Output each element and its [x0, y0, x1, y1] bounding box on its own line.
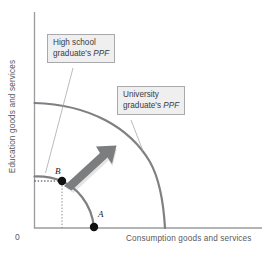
- origin-label: 0: [15, 232, 20, 242]
- callout-university-ppf: University graduate's PPF: [117, 86, 185, 115]
- point-b-label: B: [55, 166, 61, 176]
- point-a-label: A: [98, 209, 104, 219]
- ppf-chart-svg: [0, 0, 270, 258]
- shift-arrow: [64, 146, 117, 191]
- callout-university-line2-text: graduate's: [123, 101, 163, 110]
- callout-high-school-ppf-abbr: PPF: [93, 49, 109, 58]
- callout-high-school-ppf: High school graduate's PPF: [47, 34, 115, 63]
- point-a-marker: [90, 223, 98, 231]
- callout-high-school-line2-text: graduate's: [53, 49, 93, 58]
- callout-high-school-line2: graduate's PPF: [53, 49, 109, 60]
- point-b-marker: [58, 177, 66, 185]
- y-axis-label: Education goods and services: [8, 57, 17, 177]
- callout-high-school-line1: High school: [53, 38, 109, 49]
- x-axis-label: Consumption goods and services: [126, 234, 252, 243]
- callout-university-ppf-abbr: PPF: [163, 101, 179, 110]
- ppf-figure: Education goods and services Consumption…: [0, 0, 270, 258]
- callout-university-line1: University: [123, 90, 179, 101]
- leader-line-high-school: [46, 68, 74, 173]
- leader-line-university: [131, 120, 143, 151]
- callout-university-line2: graduate's PPF: [123, 101, 179, 112]
